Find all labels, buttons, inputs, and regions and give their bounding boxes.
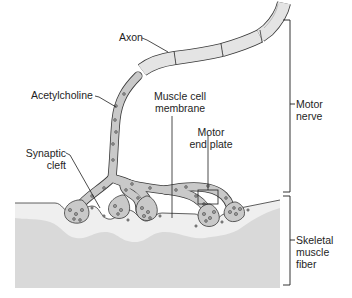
label-muscle-cell-membrane-line1: Muscle cell [150, 90, 210, 102]
label-skeletal-muscle-fiber-line1: Skeletal [296, 234, 333, 246]
label-synaptic-cleft-line1: Synaptic [14, 147, 66, 159]
label-muscle-cell-membrane: Muscle cell membrane [150, 90, 210, 114]
label-skeletal-muscle-fiber-line3: fiber [296, 258, 333, 270]
label-motor-end-plate: Motor end plate [184, 126, 238, 150]
label-motor-end-plate-line1: Motor [184, 126, 238, 138]
label-motor-end-plate-line2: end plate [184, 138, 238, 150]
brackets [283, 20, 295, 285]
label-skeletal-muscle-fiber: Skeletal muscle fiber [296, 234, 333, 270]
label-muscle-cell-membrane-line2: membrane [150, 102, 210, 114]
axon-myelin [142, 3, 284, 70]
label-motor-nerve-line1: Motor [296, 98, 323, 110]
label-synaptic-cleft-line2: cleft [14, 159, 66, 171]
label-acetylcholine: Acetylcholine [31, 89, 93, 101]
label-axon: Axon [119, 31, 143, 43]
label-motor-nerve: Motor nerve [296, 98, 323, 122]
label-synaptic-cleft: Synaptic cleft [14, 147, 66, 171]
label-motor-nerve-line2: nerve [296, 110, 323, 122]
label-skeletal-muscle-fiber-line2: muscle [296, 246, 333, 258]
neuromuscular-junction-diagram: Axon Acetylcholine Muscle cell membrane … [0, 0, 352, 298]
